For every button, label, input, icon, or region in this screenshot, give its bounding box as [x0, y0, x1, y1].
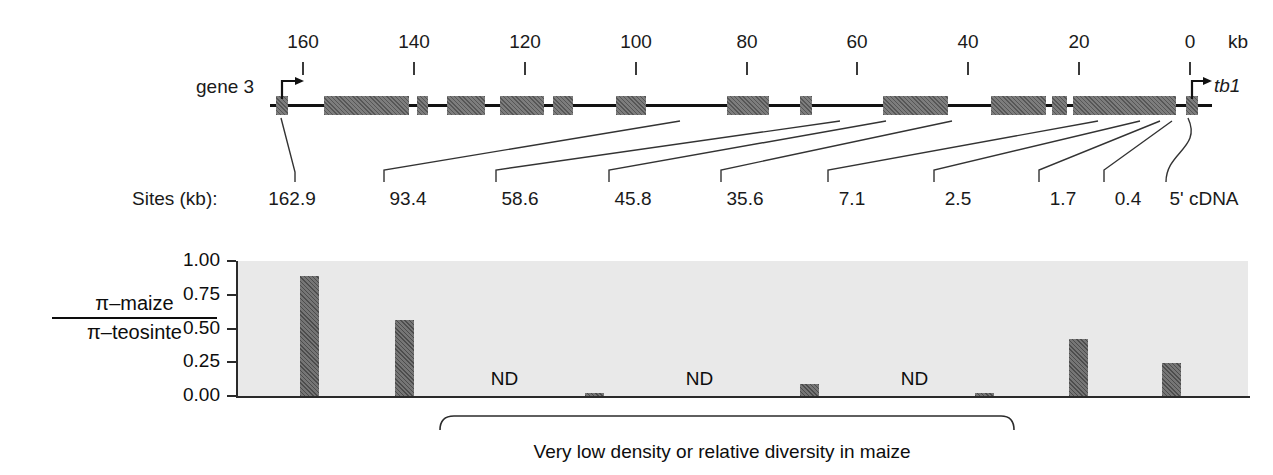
y-tick-label-0.00: 0.00	[150, 384, 220, 406]
y-axis-line	[236, 261, 238, 398]
exon-box-1	[276, 96, 288, 115]
nd-label-2.5: ND	[901, 368, 928, 390]
site-label-1: 93.4	[390, 188, 427, 210]
bar-5' cDNA	[1162, 363, 1181, 396]
y-axis-title: π–maize π–teosinte	[52, 292, 217, 344]
plot-background	[238, 261, 1248, 396]
site-label-4: 35.6	[727, 188, 764, 210]
leader-line-7	[1039, 121, 1160, 182]
y-tick-label-0.25: 0.25	[150, 350, 220, 372]
kb-tick-mark-120	[524, 62, 526, 75]
site-label-7: 1.7	[1050, 188, 1076, 210]
kb-tick-mark-0	[1189, 62, 1191, 75]
leader-line-4	[721, 121, 952, 182]
x-axis-baseline	[236, 396, 1250, 398]
y-tick-0.25	[227, 361, 236, 363]
exon-box-11	[991, 96, 1046, 115]
site-label-5: 7.1	[839, 188, 865, 210]
nd-label-35.6: ND	[686, 368, 713, 390]
kb-tick-label-40: 40	[957, 31, 978, 53]
site-leader-lines	[281, 118, 1191, 182]
figure-root: 160140120100806040200 kb gene 3 tb1 Site…	[0, 0, 1273, 475]
leader-line-2	[496, 121, 840, 182]
fraction-rule	[52, 317, 217, 319]
kb-tick-mark-100	[635, 62, 637, 75]
kb-tick-label-100: 100	[620, 31, 652, 53]
site-label-3: 45.8	[615, 188, 652, 210]
bracket-caption: Very low density or relative diversity i…	[534, 441, 911, 463]
exon-box-12	[1052, 96, 1067, 115]
y-axis-title-denominator: π–teosinte	[52, 320, 217, 343]
kb-tick-mark-140	[413, 62, 415, 75]
exon-box-4	[447, 96, 485, 115]
exon-box-8	[727, 96, 769, 115]
leader-line-5	[828, 121, 1098, 182]
exon-box-7	[616, 96, 646, 115]
site-label-0: 162.9	[268, 188, 316, 210]
exon-box-2	[324, 96, 409, 115]
y-tick-1.00	[227, 260, 236, 262]
exon-box-10	[883, 96, 948, 115]
kb-tick-label-80: 80	[736, 31, 757, 53]
leader-line-6	[934, 121, 1140, 182]
kb-tick-mark-80	[746, 62, 748, 75]
y-tick-label-1.00: 1.00	[150, 249, 220, 271]
site-label-6: 2.5	[945, 188, 971, 210]
bar-7.1	[800, 384, 819, 396]
kb-tick-label-140: 140	[398, 31, 430, 53]
kb-tick-label-60: 60	[846, 31, 867, 53]
kb-tick-label-0: 0	[1185, 31, 1196, 53]
exon-box-9	[800, 96, 812, 115]
y-axis-title-numerator: π–maize	[52, 292, 217, 315]
kb-tick-mark-20	[1078, 62, 1080, 75]
exon-box-5	[500, 96, 544, 115]
bar-93.4	[395, 320, 414, 396]
kb-tick-mark-60	[856, 62, 858, 75]
bar-1.7	[975, 393, 994, 396]
exon-box-6	[553, 96, 573, 115]
gene3-label: gene 3	[196, 76, 254, 98]
site-label-2: 58.6	[502, 188, 539, 210]
exon-box-13	[1073, 96, 1176, 115]
exon-box-3	[417, 96, 428, 115]
kb-tick-mark-40	[967, 62, 969, 75]
bar-45.8	[585, 393, 604, 396]
y-tick-0.50	[227, 328, 236, 330]
nd-label-58.6: ND	[491, 368, 518, 390]
leader-line-1	[384, 121, 680, 182]
exon-box-14	[1186, 96, 1198, 115]
y-tick-0.75	[227, 294, 236, 296]
sites-row-title: Sites (kb):	[132, 188, 218, 210]
bar-0.4	[1069, 339, 1088, 396]
low-diversity-bracket	[440, 416, 1014, 430]
tb1-label: tb1	[1214, 75, 1240, 97]
site-label-9: 5' cDNA	[1169, 188, 1238, 210]
leader-line-9	[1166, 118, 1191, 182]
leader-line-3	[609, 121, 886, 182]
kb-tick-label-160: 160	[287, 31, 319, 53]
leader-line-0	[281, 118, 295, 182]
leader-line-8	[1104, 121, 1172, 182]
bar-162.9	[300, 276, 319, 396]
kb-unit-label: kb	[1228, 31, 1248, 53]
site-label-8: 0.4	[1115, 188, 1141, 210]
kb-tick-label-20: 20	[1068, 31, 1089, 53]
kb-tick-label-120: 120	[509, 31, 541, 53]
kb-tick-mark-160	[302, 62, 304, 75]
y-tick-0.00	[227, 395, 236, 397]
